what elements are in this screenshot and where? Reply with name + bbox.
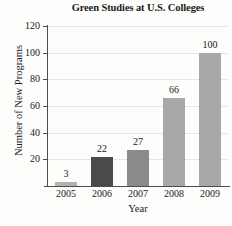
x-axis-tick-label: 2009 [190, 189, 230, 199]
x-axis-tick-label: 2007 [118, 189, 158, 199]
y-axis-tick-label: 20 [12, 154, 40, 164]
bar-value-label: 100 [190, 40, 230, 50]
y-axis-tick [43, 79, 48, 80]
bar-chart: Green Studies at U.S. Colleges Number of… [0, 0, 232, 226]
bar[interactable] [55, 182, 77, 186]
bar-value-label: 22 [82, 144, 122, 154]
bar[interactable] [163, 98, 185, 186]
y-axis-tick-label: 60 [12, 101, 40, 111]
y-axis-tick [43, 26, 48, 27]
x-axis-tick-label: 2008 [154, 189, 194, 199]
bar-value-label: 3 [46, 169, 86, 179]
x-axis-line [44, 186, 230, 187]
gridline [48, 26, 228, 27]
y-axis-tick-label: 120 [12, 21, 40, 31]
y-axis-tick-label: 40 [12, 128, 40, 138]
bar-value-label: 27 [118, 137, 158, 147]
plot-area: 3222766100 [48, 26, 228, 186]
x-axis-tick-label: 2005 [46, 189, 86, 199]
y-axis-tick [43, 53, 48, 54]
y-axis-tick [43, 159, 48, 160]
y-axis-tick-label: 80 [12, 74, 40, 84]
bar[interactable] [127, 150, 149, 186]
y-axis-tick-labels: 20406080100120 [8, 0, 40, 226]
x-axis-tick-label: 2006 [82, 189, 122, 199]
bar-value-label: 66 [154, 85, 194, 95]
bar[interactable] [91, 157, 113, 186]
chart-title: Green Studies at U.S. Colleges [46, 2, 230, 13]
y-axis-tick [43, 106, 48, 107]
x-axis-label: Year [48, 203, 228, 214]
bar[interactable] [199, 53, 221, 186]
y-axis-tick [43, 133, 48, 134]
y-axis-tick-label: 100 [12, 48, 40, 58]
